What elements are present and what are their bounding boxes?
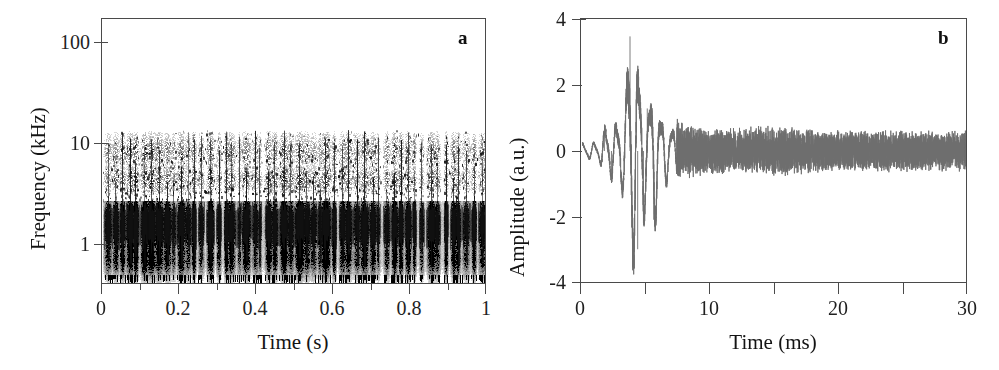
panel-b-x-axis-title: Time (ms) <box>729 330 816 355</box>
panel-b-letter: b <box>938 27 949 49</box>
panel-b-xtick-20 <box>838 283 839 294</box>
panel-b-xtick-label-10: 10 <box>699 298 719 318</box>
panel-b-ytick-label-4: 4 <box>520 9 566 29</box>
panel-b-y-axis-title: Amplitude (a.u.) <box>505 138 530 277</box>
panel-b: 4 2 0 -2 -4 0 10 20 30 Time (ms) Amplitu… <box>0 0 999 370</box>
panel-b-ytick-m2 <box>572 217 582 218</box>
panel-b-xtick-label-0: 0 <box>575 298 585 318</box>
panel-b-xtick-label-30: 30 <box>957 298 977 318</box>
figure-root: 100 10 1 0 0.2 0.4 0.6 0.8 1 Time (s) Fr… <box>0 0 999 370</box>
panel-b-xtick-5 <box>645 283 646 294</box>
panel-b-xtick-label-20: 20 <box>828 298 848 318</box>
panel-b-xtick-25 <box>903 283 904 294</box>
panel-b-xtick-0 <box>580 283 581 294</box>
panel-b-xtick-15 <box>774 283 775 294</box>
panel-b-xtick-30 <box>966 283 967 294</box>
panel-b-ytick-0 <box>572 151 582 152</box>
oscillogram-canvas <box>582 20 966 282</box>
panel-b-xtick-10 <box>709 283 710 294</box>
panel-b-ytick-4 <box>572 19 586 20</box>
panel-b-ytick-m4 <box>572 282 586 283</box>
panel-b-ytick-2 <box>572 85 582 86</box>
panel-b-ytick-label-2: 2 <box>520 75 566 95</box>
